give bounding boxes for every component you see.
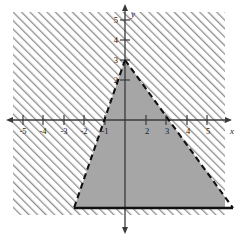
- x-tick-label--5: -5: [19, 126, 26, 136]
- x-tick-label-3: 3: [165, 126, 169, 136]
- x-axis-left-arrow: [6, 117, 13, 123]
- y-axis-label: y: [130, 9, 135, 19]
- y-tick-label-5: 5: [114, 15, 118, 25]
- inequality-graph-figure: -5 -4 -3 -2 -1 2 3 4 5 5 4 3 2 y x: [0, 0, 238, 238]
- x-tick-label--2: -2: [80, 126, 87, 136]
- x-axis-label: x: [229, 126, 234, 136]
- y-axis-down-arrow: [122, 227, 128, 234]
- x-tick-label--4: -4: [39, 126, 47, 136]
- x-tick-label-5: 5: [206, 126, 210, 136]
- x-tick-label-2: 2: [145, 126, 149, 136]
- y-axis-up-arrow: [122, 4, 128, 11]
- y-tick-label-2: 2: [114, 75, 118, 85]
- x-axis-right-arrow: [225, 117, 232, 123]
- x-tick-label--3: -3: [60, 126, 67, 136]
- y-tick-label-3: 3: [114, 55, 118, 65]
- coordinate-plane-svg: -5 -4 -3 -2 -1 2 3 4 5 5 4 3 2 y x: [0, 0, 238, 238]
- x-tick-label--1: -1: [101, 126, 108, 136]
